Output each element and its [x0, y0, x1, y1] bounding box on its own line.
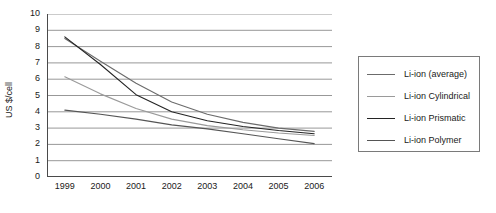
- legend-item-label: Li-ion Prismatic: [404, 114, 466, 123]
- x-axis-tick-label: 2006: [292, 182, 336, 191]
- series-line: [65, 37, 314, 134]
- line-chart-figure: US $/cell 012345678910 19992000200120022…: [0, 0, 496, 213]
- legend-item-label: Li-ion Polymer: [404, 136, 462, 145]
- legend-item[interactable]: Li-ion Polymer: [359, 129, 479, 151]
- y-axis-title: US $/cell: [2, 55, 16, 145]
- series-lines: [65, 37, 314, 144]
- y-axis-tick-label: 9: [18, 25, 40, 34]
- y-axis-tick-label: 8: [18, 42, 40, 51]
- gridlines: [47, 14, 332, 177]
- series-line: [65, 38, 314, 131]
- y-axis-tick-label: 6: [18, 74, 40, 83]
- legend-item-label: Li-ion Cylindrical: [404, 92, 470, 101]
- legend-color-swatch: [367, 96, 395, 97]
- legend-color-swatch: [367, 140, 395, 141]
- y-axis-tick-label: 10: [18, 9, 40, 18]
- legend-color-swatch: [367, 118, 395, 119]
- plot-area: [47, 14, 332, 177]
- y-axis-tick-label: 3: [18, 123, 40, 132]
- y-axis-tick-label: 4: [18, 107, 40, 116]
- legend-item[interactable]: Li-ion Prismatic: [359, 107, 479, 129]
- y-axis-tick-label: 0: [18, 172, 40, 181]
- y-axis-tick-label: 1: [18, 156, 40, 165]
- y-axis-tick-label: 2: [18, 139, 40, 148]
- legend-item[interactable]: Li-ion (average): [359, 63, 479, 85]
- legend-color-swatch: [367, 74, 395, 75]
- plot-canvas: [47, 14, 332, 177]
- legend-item[interactable]: Li-ion Cylindrical: [359, 85, 479, 107]
- y-axis-tick-label: 5: [18, 91, 40, 100]
- series-line: [65, 110, 314, 143]
- y-axis-tick-label: 7: [18, 58, 40, 67]
- chart-legend: Li-ion (average)Li-ion CylindricalLi-ion…: [358, 56, 480, 152]
- y-axis-title-text: US $/cell: [4, 82, 14, 118]
- legend-item-label: Li-ion (average): [404, 70, 467, 79]
